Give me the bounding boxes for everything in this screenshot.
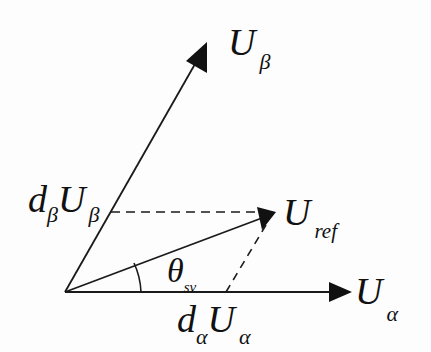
u-beta-main: U	[228, 21, 255, 63]
theta-main: θ	[167, 252, 184, 289]
label-u-beta: Uβ	[228, 23, 266, 61]
u-alpha-arrowhead-icon	[329, 282, 352, 302]
label-d-beta-u-beta: dβUβ	[28, 180, 96, 218]
u-ref-sub: ref	[314, 219, 337, 243]
label-u-alpha: Uα	[355, 272, 394, 310]
u-alpha-main: U	[355, 270, 382, 312]
u-beta-sub: β	[259, 49, 270, 74]
d-alpha-u-sub: α	[239, 324, 251, 349]
u-ref-main: U	[283, 191, 310, 233]
d-alpha-u-main: U	[208, 298, 235, 340]
label-u-ref: Uref	[283, 193, 333, 231]
theta-angle-arc	[134, 263, 141, 292]
u-alpha-sub: α	[386, 301, 398, 326]
d-beta-u-main: U	[58, 178, 85, 220]
theta-sub: sv	[184, 279, 197, 295]
u-beta-arrowhead-icon	[186, 42, 207, 73]
label-theta-sv: θsv	[167, 254, 196, 288]
d-alpha-sub: α	[196, 324, 208, 349]
d-alpha-d: d	[177, 298, 196, 340]
u-ref-vector	[65, 218, 262, 292]
label-d-alpha-u-alpha: dαUα	[177, 300, 247, 338]
d-beta-sub: β	[47, 202, 58, 227]
alpha-projection-dashed	[226, 225, 266, 292]
d-beta-d: d	[28, 178, 47, 220]
u-ref-arrowhead-icon	[257, 207, 276, 230]
d-beta-u-sub: β	[88, 202, 99, 227]
